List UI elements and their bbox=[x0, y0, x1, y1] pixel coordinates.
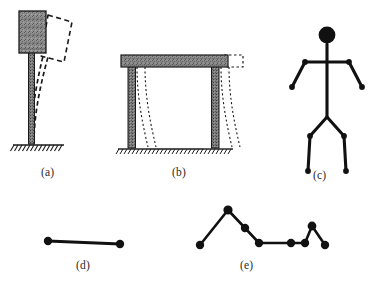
mass-block-a bbox=[19, 11, 46, 53]
left-column-b bbox=[128, 66, 136, 148]
panel-caption-e: (e) bbox=[240, 259, 253, 271]
stick-figure-head bbox=[319, 27, 336, 44]
stick-figure-left-arm bbox=[292, 62, 305, 87]
figure-container: (a) (b) (c) (d) (e) bbox=[0, 0, 371, 291]
panel-a-cantilever-column bbox=[11, 11, 73, 151]
figure-canvas bbox=[0, 0, 371, 291]
ground-support-b-left bbox=[116, 149, 148, 154]
panel-c-stick-figure bbox=[289, 27, 365, 174]
panel-d-single-line-element bbox=[44, 237, 124, 248]
panel-caption-c: (c) bbox=[313, 169, 326, 181]
panel-b-portal-frame bbox=[116, 55, 243, 154]
ground-support-a bbox=[11, 145, 65, 151]
ground-support-b-right bbox=[204, 149, 233, 154]
panel-caption-b: (b) bbox=[172, 166, 186, 178]
column-a bbox=[29, 52, 35, 144]
stick-figure-left-shin bbox=[308, 136, 310, 171]
stick-figure-left-thigh bbox=[310, 117, 327, 136]
stick-figure-right-arm bbox=[349, 62, 362, 87]
ground-hatch-b-middle bbox=[148, 149, 204, 154]
stick-figure-right-shin bbox=[344, 136, 346, 171]
stick-figure-right-thigh bbox=[327, 117, 344, 136]
dotted-deformed-right-column bbox=[221, 67, 240, 147]
right-column-b bbox=[212, 66, 220, 148]
panel-e-multi-node-chain bbox=[196, 205, 329, 249]
line-element-d bbox=[48, 241, 120, 244]
panel-caption-d: (d) bbox=[76, 259, 90, 271]
dotted-deformed-left-column bbox=[137, 67, 156, 147]
panel-caption-a: (a) bbox=[41, 166, 54, 178]
